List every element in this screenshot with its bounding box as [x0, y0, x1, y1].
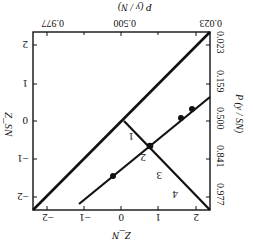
right-tick-labels: 0.023 0.159 0.500 0.841 0.977 P (y / SN): [215, 31, 245, 206]
svg-text:0: 0: [22, 115, 28, 127]
right-axis-label: P (y / SN): [233, 93, 245, 134]
top-tick-labels: 0.977 0.500 0.023 P (y / N): [42, 1, 223, 29]
svg-text:0.023: 0.023: [215, 31, 226, 54]
svg-text:−2: −2: [42, 212, 54, 224]
svg-text:1: 1: [156, 212, 162, 224]
roc-line: [79, 97, 210, 204]
label-1: 1: [129, 131, 135, 143]
svg-text:0: 0: [118, 212, 124, 224]
label-4: 4: [172, 189, 178, 201]
x-axis-label: Z_N: [111, 230, 131, 242]
data-point: [110, 173, 116, 179]
svg-text:2: 2: [23, 39, 29, 51]
svg-text:0.159: 0.159: [215, 70, 226, 93]
label-2: 2: [141, 152, 147, 164]
chart: 1 2 3 4 −2 −1 0 1 2 Z_N 2 1 0 −1 −2 Z_SN…: [0, 0, 253, 243]
svg-text:0.977: 0.977: [215, 183, 226, 206]
top-axis-label: P (y / N): [117, 1, 153, 13]
y-axis-label: Z_SN: [3, 112, 15, 137]
svg-text:−1: −1: [17, 153, 29, 165]
left-tick-labels: 2 1 0 −1 −2 Z_SN: [3, 39, 29, 203]
svg-text:0.841: 0.841: [215, 145, 226, 168]
data-point: [178, 115, 184, 121]
perp-labels: 1 2 3 4: [129, 131, 179, 201]
svg-text:0.500: 0.500: [215, 107, 226, 130]
svg-text:0.023: 0.023: [200, 18, 223, 29]
svg-text:0.977: 0.977: [42, 18, 65, 29]
chart-svg: 1 2 3 4 −2 −1 0 1 2 Z_N 2 1 0 −1 −2 Z_SN…: [0, 0, 253, 243]
svg-text:0.500: 0.500: [114, 18, 137, 29]
svg-text:2: 2: [194, 212, 200, 224]
data-point: [189, 106, 195, 112]
svg-text:1: 1: [23, 78, 29, 90]
label-3: 3: [156, 170, 162, 182]
svg-text:−1: −1: [79, 212, 91, 224]
perpendicular-line: [124, 121, 210, 210]
svg-text:−2: −2: [17, 191, 29, 203]
bottom-tick-labels: −2 −1 0 1 2 Z_N: [42, 212, 199, 242]
